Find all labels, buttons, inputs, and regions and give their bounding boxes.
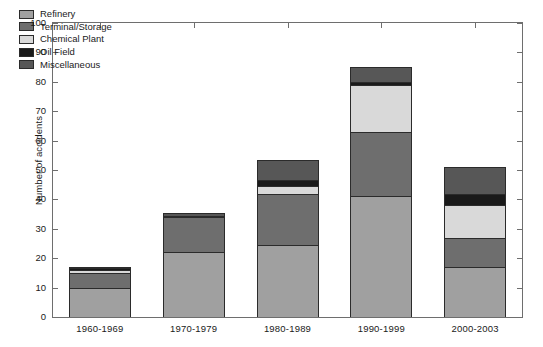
bar-segment[interactable] — [69, 270, 131, 273]
y-axis-tick — [53, 170, 58, 171]
bar-segment[interactable] — [350, 132, 412, 197]
y-axis-tick-label: 60 — [6, 135, 46, 146]
y-axis-tick — [517, 111, 522, 112]
bar-segment[interactable] — [444, 194, 506, 206]
legend-item-label: Miscellaneous — [40, 60, 100, 70]
y-axis-tick-label: 50 — [6, 164, 46, 175]
bar-segment[interactable] — [163, 252, 225, 317]
y-axis-tick — [517, 229, 522, 230]
bar-segment[interactable] — [257, 194, 319, 245]
bar-segment[interactable] — [69, 288, 131, 317]
bar-segment[interactable] — [163, 213, 225, 216]
y-axis-tick-label: 80 — [6, 76, 46, 87]
y-axis-tick-label: 0 — [6, 311, 46, 322]
bar-segment[interactable] — [350, 82, 412, 85]
bar-segment[interactable] — [444, 267, 506, 317]
y-axis-tick — [53, 111, 58, 112]
bar-stack[interactable] — [444, 23, 506, 317]
plot-area — [52, 22, 523, 318]
y-axis-tick — [53, 288, 58, 289]
x-axis-tick-label: 1990-1999 — [331, 323, 431, 334]
bar-segment[interactable] — [257, 245, 319, 317]
y-axis-tick — [517, 52, 522, 53]
y-axis-tick — [517, 170, 522, 171]
y-axis-tick — [53, 229, 58, 230]
y-axis-tick-label: 10 — [6, 282, 46, 293]
y-axis-tick-label: 30 — [6, 223, 46, 234]
bar-segment[interactable] — [257, 180, 319, 186]
bar-segment[interactable] — [69, 273, 131, 288]
y-axis-tick — [517, 82, 522, 83]
legend-swatch-icon — [19, 60, 34, 69]
bar-segment[interactable] — [350, 85, 412, 132]
y-axis-tick — [517, 258, 522, 259]
bar-stack[interactable] — [163, 23, 225, 317]
y-axis-tick — [53, 317, 58, 318]
y-axis-tick-label: 100 — [6, 17, 46, 28]
bar-segment[interactable] — [444, 205, 506, 237]
x-axis-tick-label: 1970-1979 — [144, 323, 244, 334]
legend-item-label: Terminal/Storage — [40, 22, 112, 32]
y-axis-tick-label: 70 — [6, 105, 46, 116]
x-axis-tick-label: 2000-2003 — [425, 323, 525, 334]
x-axis-tick-label: 1960-1969 — [50, 323, 150, 334]
chart-figure: Number of accidents RefineryTerminal/Sto… — [0, 0, 543, 347]
y-axis-tick — [53, 258, 58, 259]
bar-segment[interactable] — [350, 67, 412, 82]
y-axis-tick — [517, 317, 522, 318]
y-axis-tick — [53, 82, 58, 83]
x-axis-tick-label: 1980-1989 — [238, 323, 338, 334]
y-axis-tick — [53, 141, 58, 142]
plot-inner — [53, 23, 522, 317]
legend-item[interactable]: Chemical Plant — [19, 33, 112, 46]
bar-segment[interactable] — [163, 217, 225, 252]
y-axis-tick — [53, 199, 58, 200]
legend-swatch-icon — [19, 35, 34, 44]
y-axis-tick-label: 20 — [6, 252, 46, 263]
bar-stack[interactable] — [257, 23, 319, 317]
y-axis-tick-label: 90 — [6, 46, 46, 57]
bar-segment[interactable] — [444, 238, 506, 267]
y-axis-tick — [517, 288, 522, 289]
bar-segment[interactable] — [350, 196, 412, 317]
bar-segment[interactable] — [444, 167, 506, 193]
bar-segment[interactable] — [257, 186, 319, 193]
y-axis-tick — [517, 141, 522, 142]
bar-stack[interactable] — [350, 23, 412, 317]
bar-segment[interactable] — [69, 268, 131, 269]
y-axis-tick — [517, 199, 522, 200]
legend-item-label: Chemical Plant — [40, 34, 104, 44]
y-axis-tick-label: 40 — [6, 193, 46, 204]
bar-segment[interactable] — [257, 160, 319, 181]
bar-segment[interactable] — [163, 216, 225, 217]
y-axis-tick — [517, 23, 522, 24]
bar-segment[interactable] — [69, 267, 131, 268]
legend-item[interactable]: Miscellaneous — [19, 58, 112, 71]
